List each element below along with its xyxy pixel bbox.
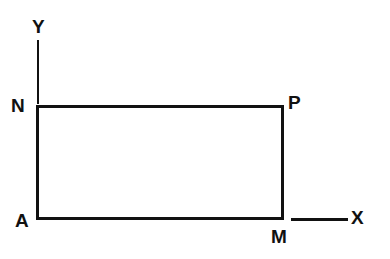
rectangle-anpm	[38, 107, 283, 219]
geometry-figure-canvas: N P A M Y X	[0, 0, 390, 259]
vertex-label-a: A	[15, 211, 29, 230]
figure-drawing	[0, 0, 390, 259]
vertex-label-p: P	[288, 93, 301, 112]
vertex-label-m: M	[271, 227, 287, 246]
axis-label-x: X	[351, 208, 364, 227]
axis-label-y: Y	[32, 17, 45, 36]
vertex-label-n: N	[11, 96, 25, 115]
